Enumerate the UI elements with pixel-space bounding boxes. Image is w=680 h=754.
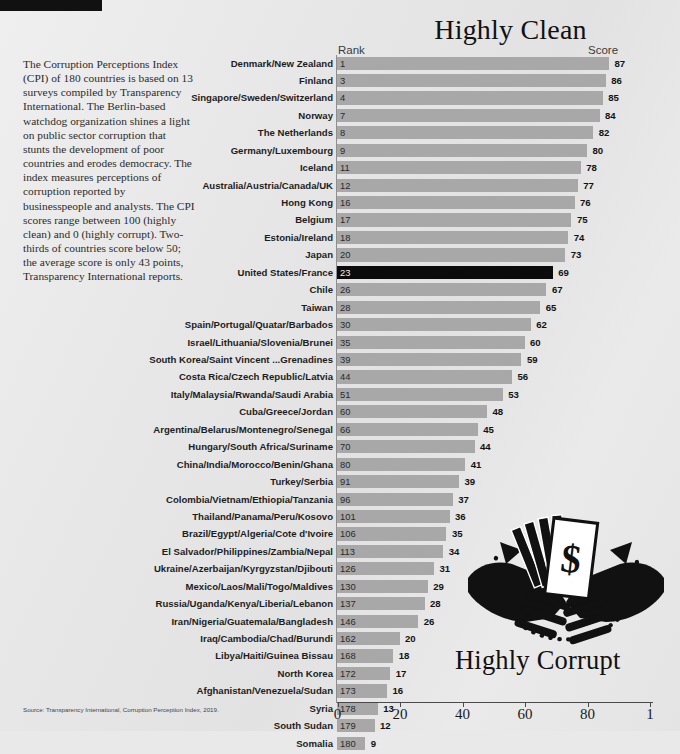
bar-wrapper: 130 <box>337 580 428 593</box>
country-label: Somalia <box>60 737 333 750</box>
score-bar <box>337 301 540 314</box>
score-value: 75 <box>577 213 588 226</box>
country-label: Hong Kong <box>60 196 333 209</box>
bar-wrapper: 7 <box>337 109 600 122</box>
country-label: Estonia/Ireland <box>60 231 333 244</box>
country-label: Italy/Malaysia/Rwanda/Saudi Arabia <box>60 388 333 401</box>
country-label: The Netherlands <box>60 126 333 139</box>
table-row: Finland386 <box>0 74 680 91</box>
rank-value: 168 <box>340 649 356 662</box>
table-row: Italy/Malaysia/Rwanda/Saudi Arabia5153 <box>0 388 680 405</box>
bar-wrapper: 172 <box>337 667 390 680</box>
rank-value: 4 <box>340 91 345 104</box>
table-row: Hong Kong1676 <box>0 196 680 213</box>
table-row: Singapore/Sweden/Switzerland485 <box>0 91 680 108</box>
country-label: United States/France <box>60 266 333 279</box>
score-bar <box>337 266 553 279</box>
x-axis-line <box>337 702 653 703</box>
rank-value: 20 <box>340 248 350 261</box>
bar-wrapper: 179 <box>337 719 375 732</box>
country-label: Hungary/South Africa/Suriname <box>60 440 333 453</box>
score-bar <box>337 493 453 506</box>
country-label: Russia/Uganda/Kenya/Liberia/Lebanon <box>60 597 333 610</box>
rank-value: 130 <box>340 580 356 593</box>
country-label: Germany/Luxembourg <box>60 144 333 157</box>
rank-value: 146 <box>340 615 356 628</box>
bar-wrapper: 180 <box>337 737 365 750</box>
rank-value: 137 <box>340 597 356 610</box>
bar-wrapper: 12 <box>337 179 578 192</box>
score-value: 60 <box>530 336 541 349</box>
country-label: Iceland <box>60 161 333 174</box>
score-bar <box>337 74 606 87</box>
score-value: 80 <box>593 144 604 157</box>
score-bar <box>337 458 465 471</box>
table-row: Australia/Austria/Canada/UK1277 <box>0 179 680 196</box>
score-value: 17 <box>396 667 407 680</box>
country-label: Brazil/Egypt/Algeria/Cote d'Ivoire <box>60 527 333 540</box>
score-bar <box>337 440 475 453</box>
score-value: 77 <box>583 179 594 192</box>
score-bar <box>337 213 571 226</box>
bar-wrapper: 39 <box>337 353 521 366</box>
country-label: Ukraine/Azerbaijan/Kyrgyzstan/Djibouti <box>60 562 333 575</box>
rank-value: 80 <box>340 458 350 471</box>
score-bar <box>337 405 487 418</box>
score-value: 76 <box>580 196 591 209</box>
bar-wrapper: 70 <box>337 440 475 453</box>
rank-value: 44 <box>340 370 350 383</box>
table-row: United States/France2369 <box>0 266 680 283</box>
rank-value: 91 <box>340 475 350 488</box>
rank-value: 35 <box>340 336 350 349</box>
score-bar <box>337 353 521 366</box>
bar-wrapper: 162 <box>337 632 400 645</box>
score-value: 26 <box>424 615 435 628</box>
score-value: 44 <box>480 440 491 453</box>
table-row: Afghanistan/Venezuela/Sudan17316 <box>0 684 680 701</box>
bar-wrapper: 16 <box>337 196 575 209</box>
score-value: 45 <box>483 423 494 436</box>
score-value: 82 <box>599 126 610 139</box>
bar-wrapper: 137 <box>337 597 425 610</box>
bar-wrapper: 17 <box>337 213 571 226</box>
score-bar <box>337 388 503 401</box>
bar-wrapper: 23 <box>337 266 553 279</box>
score-bar <box>337 109 600 122</box>
score-value: 29 <box>433 580 444 593</box>
rank-value: 17 <box>340 213 350 226</box>
rank-value: 162 <box>340 632 356 645</box>
bar-wrapper: 26 <box>337 283 546 296</box>
country-label: Thailand/Panama/Peru/Kosovo <box>60 510 333 523</box>
bar-wrapper: 178 <box>337 702 378 715</box>
rank-value: 11 <box>340 161 350 174</box>
rank-value: 8 <box>340 126 345 139</box>
score-value: 78 <box>586 161 597 174</box>
table-row: Iceland1178 <box>0 161 680 178</box>
bar-wrapper: 18 <box>337 231 568 244</box>
rank-value: 26 <box>340 283 350 296</box>
bar-wrapper: 8 <box>337 126 593 139</box>
bar-wrapper: 4 <box>337 91 603 104</box>
score-bar <box>337 318 531 331</box>
score-bar <box>337 231 568 244</box>
score-value: 9 <box>371 737 376 750</box>
score-value: 31 <box>439 562 450 575</box>
bar-wrapper: 146 <box>337 615 418 628</box>
bar-wrapper: 106 <box>337 527 446 540</box>
bar-wrapper: 51 <box>337 388 503 401</box>
score-value: 16 <box>393 684 404 697</box>
country-label: Colombia/Vietnam/Ethiopia/Tanzania <box>60 493 333 506</box>
country-label: Argentina/Belarus/Montenegro/Senegal <box>60 423 333 436</box>
axis-tick-label: 1 <box>646 706 654 723</box>
score-value: 35 <box>452 527 463 540</box>
country-label: Iraq/Cambodia/Chad/Burundi <box>60 632 333 645</box>
rank-value: 66 <box>340 423 350 436</box>
score-bar <box>337 196 575 209</box>
country-label: El Salvador/Philippines/Zambia/Nepal <box>60 545 333 558</box>
table-row: Cuba/Greece/Jordan6048 <box>0 405 680 422</box>
table-row: Libya/Haiti/Guinea Bissau16818 <box>0 649 680 666</box>
axis-tick-label: 20 <box>393 706 408 723</box>
table-row: Taiwan2865 <box>0 301 680 318</box>
country-label: China/India/Morocco/Benin/Ghana <box>60 458 333 471</box>
